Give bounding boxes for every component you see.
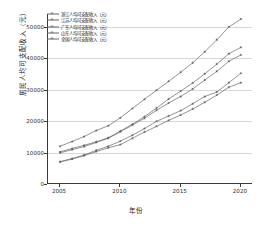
x-axis-tick-label: 2005 <box>52 188 66 194</box>
y-axis-tick-mark <box>44 121 47 122</box>
y-axis-tick-mark <box>44 153 47 154</box>
x-axis-tick-label: 2010 <box>112 188 126 194</box>
chart-figure: 01000020000300004000050000 居民人均可支配收入（元） … <box>0 0 273 228</box>
legend-item-label: 广东人均可支配收入（元） <box>61 24 110 30</box>
x-axis-tick-label: 2015 <box>173 188 187 194</box>
y-axis-tick-mark <box>44 90 47 91</box>
series-4 <box>59 72 243 163</box>
y-axis-tick-mark <box>44 184 47 185</box>
legend-item-label: 全国人均可支配收入（元） <box>61 36 110 42</box>
series-3 <box>59 53 243 154</box>
series-5 <box>59 81 243 163</box>
y-axis-tick-label: 20000 <box>26 118 44 124</box>
x-axis-tick-mark <box>180 184 181 187</box>
y-axis-tick-mark <box>44 27 47 28</box>
y-axis-title: 居民人均可支配收入（元） <box>17 0 27 122</box>
data-point-marker <box>240 81 243 84</box>
data-point-marker <box>83 135 86 138</box>
legend-item-5[interactable]: ✳全国人均可支配收入（元） <box>47 36 109 42</box>
data-point-marker <box>71 140 74 143</box>
legend: ✳浙江人均可支配收入（元）✳江苏人均可支配收入（元）✳广东人均可支配收入（元）✳… <box>46 10 111 43</box>
y-axis-tick-label: 10000 <box>26 150 44 156</box>
y-axis-tick-label: 30000 <box>26 87 44 93</box>
legend-item-2[interactable]: ✳江苏人均可支配收入（元） <box>47 18 109 24</box>
series-line <box>60 73 241 161</box>
y-axis-tick-mark <box>44 58 47 59</box>
series-2 <box>59 46 243 153</box>
x-axis-title: 年份 <box>0 205 273 215</box>
legend-item-label: 山东人均可支配收入（元） <box>61 30 110 36</box>
legend-item-3[interactable]: ✳广东人均可支配收入（元） <box>47 24 109 30</box>
data-point-marker <box>119 143 122 146</box>
legend-item-4[interactable]: ✳山东人均可支配收入（元） <box>47 30 109 36</box>
x-axis-tick-label: 2020 <box>233 188 247 194</box>
data-point-marker <box>59 145 62 148</box>
data-point-marker <box>119 140 122 143</box>
series-line <box>60 55 241 153</box>
legend-item-1[interactable]: ✳浙江人均可支配收入（元） <box>47 12 109 18</box>
legend-item-label: 江苏人均可支配收入（元） <box>61 17 110 23</box>
x-axis-tick-mark <box>119 184 120 187</box>
data-point-marker <box>59 160 62 163</box>
legend-marker-icon: ✳ <box>47 36 59 42</box>
series-line <box>60 47 241 152</box>
data-point-marker <box>107 124 110 127</box>
x-axis-tick-mark <box>240 184 241 187</box>
y-axis-tick-label: 40000 <box>26 55 44 61</box>
x-axis-tick-mark <box>59 184 60 187</box>
y-axis-tick-label: 50000 <box>26 24 44 30</box>
legend-item-label: 浙江人均可支配收入（元） <box>61 11 110 17</box>
